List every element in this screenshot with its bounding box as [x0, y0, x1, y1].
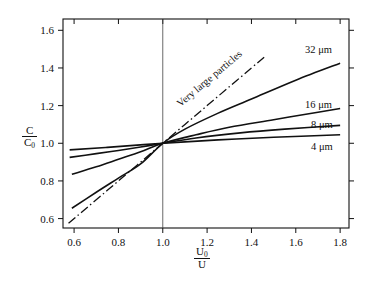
- y-tick-label: 1.2: [40, 100, 54, 112]
- y-tick-label: 1.4: [40, 62, 54, 74]
- chart-figure: 0.60.81.01.21.41.61.80.60.81.01.21.41.63…: [0, 0, 370, 281]
- curve-label: 4 μm: [311, 141, 333, 152]
- y-tick-label: 1.6: [40, 24, 54, 36]
- x-tick-label: 1.4: [245, 236, 259, 248]
- y-tick-label: 1.0: [40, 137, 54, 149]
- x-tick-label: 1.8: [333, 236, 347, 248]
- y-tick-label: 0.8: [40, 175, 54, 187]
- x-axis-label-denominator: U: [194, 258, 210, 270]
- y-axis-label-denominator: C0: [22, 136, 37, 149]
- x-axis-label-numerator: U0: [194, 246, 210, 258]
- y-axis-label: C C0: [22, 125, 37, 150]
- x-axis-label: U0 U: [194, 246, 210, 271]
- x-tick-label: 1.6: [289, 236, 303, 248]
- chart-canvas: 0.60.81.01.21.41.61.80.60.81.01.21.41.63…: [0, 0, 370, 281]
- y-tick-label: 0.6: [40, 213, 54, 225]
- x-tick-label: 0.6: [67, 236, 81, 248]
- curve-label: 8 μm: [311, 119, 333, 130]
- annotation-very-large-particles: Very large particles: [175, 48, 244, 109]
- curve-label: 32 μm: [305, 44, 332, 55]
- y-axis-label-numerator: C: [22, 125, 37, 136]
- curve-label: 16 μm: [305, 99, 332, 110]
- x-tick-label: 0.8: [112, 236, 126, 248]
- x-tick-label: 1.0: [156, 236, 170, 248]
